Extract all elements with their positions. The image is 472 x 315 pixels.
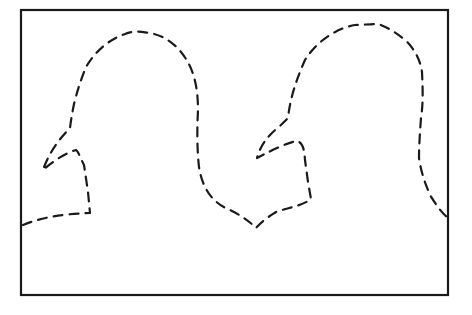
figure-background — [0, 0, 472, 315]
diagram-svg — [0, 0, 472, 315]
figure-canvas — [0, 0, 472, 315]
